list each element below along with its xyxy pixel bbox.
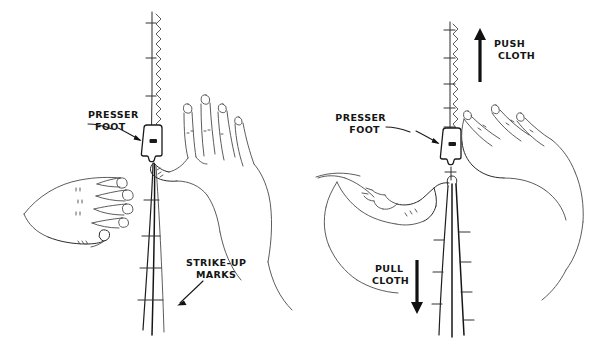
left-strike-up-leader: [177, 281, 203, 306]
right-lower-seam: [445, 167, 456, 180]
label-presser-foot-left-line1: PRESSER: [88, 109, 139, 120]
left-zigzag-stitch-icon: [156, 14, 161, 129]
label-push-cloth-line1: PUSH: [494, 38, 525, 49]
sewing-diagram-illustration: PRESSER FOOT STRIKE-UP MARKS PRESSER FOO…: [0, 0, 606, 357]
left-seam-line: [152, 12, 153, 132]
label-strike-up-marks-line2: MARKS: [196, 269, 236, 280]
label-presser-foot-right-line1: PRESSER: [335, 112, 386, 123]
label-layer: PRESSER FOOT STRIKE-UP MARKS PRESSER FOO…: [88, 38, 535, 286]
right-strike-up-tick-marks: [432, 232, 474, 320]
presser-foot-icon-left: [141, 125, 162, 162]
right-panel-group: [316, 22, 583, 337]
left-panel-flat-hand: [24, 177, 133, 247]
diagram-canvas: PRESSER FOOT STRIKE-UP MARKS PRESSER FOO…: [0, 0, 606, 357]
label-presser-foot-right-line2: FOOT: [349, 124, 380, 135]
label-presser-foot-left-line2: FOOT: [95, 121, 126, 132]
label-pull-cloth-line2: CLOTH: [372, 275, 409, 286]
right-presser-foot-leader: [386, 127, 440, 144]
presser-foot-icon-right: [440, 128, 461, 165]
label-push-cloth-line2: CLOTH: [498, 50, 535, 61]
right-fabric-edges: [439, 176, 464, 337]
left-panel-group: [24, 12, 292, 335]
right-zigzag-stitch-icon: [453, 24, 458, 129]
pull-arrow-down: [411, 260, 423, 314]
left-upper-tick-marks: [146, 23, 156, 96]
left-fabric-edges: [143, 163, 164, 335]
right-panel-pushing-hand: [462, 105, 584, 300]
label-strike-up-marks-line1: STRIKE-UP: [186, 257, 246, 268]
push-arrow-up: [474, 28, 486, 82]
label-pull-cloth-line1: PULL: [375, 263, 403, 274]
